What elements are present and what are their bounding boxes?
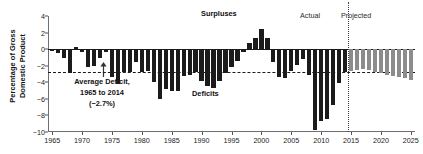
bar [283,49,287,78]
bar [265,38,269,49]
bar [355,49,359,70]
y-axis-title-line-1: Percentage of Gross [8,1,18,131]
bar [217,49,221,81]
y-tick-mark [45,16,48,17]
bar [349,49,353,71]
x-tick-mark [351,132,352,135]
bar [379,49,383,73]
bar [325,49,329,119]
bar [152,49,156,82]
bar [211,49,215,88]
average-deficit-reference-line [48,72,415,73]
bar [313,49,317,130]
bar [104,49,108,52]
bar [409,49,413,80]
y-axis-spine [48,16,49,132]
bar [146,49,150,71]
x-tick-mark [232,132,233,135]
bar [50,49,54,51]
bar [301,49,305,59]
budget-deficit-chart: Percentage of Gross Domestic Product Act… [0,0,423,154]
bar [134,49,138,62]
bar [235,49,239,61]
bar [373,49,377,71]
x-tick-label: 2005 [283,136,299,145]
x-tick-label: 2015 [343,136,359,145]
bar [122,49,126,71]
x-tick-mark [321,132,322,135]
y-tick-mark [45,49,48,50]
bar [361,49,365,69]
bar [337,49,341,83]
x-tick-label: 1965 [44,136,60,145]
x-tick-mark [261,132,262,135]
y-tick-label: −6 [37,94,45,103]
bar [164,49,168,89]
y-tick-label: −2 [37,61,45,70]
bar [170,49,174,91]
bar [289,49,293,71]
bar [367,49,371,70]
y-axis-title: Percentage of Gross Domestic Product [8,1,34,131]
bar [385,49,389,75]
bar [229,49,233,67]
bar [205,49,209,86]
x-tick-label: 1980 [134,136,150,145]
x-tick-mark [52,132,53,135]
y-tick-mark [45,82,48,83]
x-tick-label: 2010 [313,136,329,145]
bar [110,49,114,77]
bar [182,49,186,76]
plot-area: 420−2−4−6−8−1019651970197519801985199019… [48,16,415,132]
x-tick-label: 1970 [74,136,90,145]
bar [343,49,347,72]
bar [116,49,120,84]
x-tick-mark [411,132,412,135]
bar [74,47,78,49]
bar [241,49,245,51]
y-axis-title-line-2: Domestic Product [18,1,28,131]
x-tick-mark [202,132,203,135]
x-tick-label: 1985 [164,136,180,145]
bar [271,49,275,61]
bar [403,49,407,78]
bar [295,49,299,65]
x-tick-label: 2000 [253,136,269,145]
y-tick-label: −4 [37,78,45,87]
bar [188,49,192,75]
y-tick-mark [45,132,48,133]
bar [56,49,60,53]
bar [68,49,72,73]
bar [253,38,257,50]
bar [247,43,251,50]
x-tick-mark [142,132,143,135]
x-tick-label: 2025 [403,136,419,145]
bar [193,49,197,72]
x-tick-label: 2020 [373,136,389,145]
bar [223,49,227,73]
bar [62,49,66,58]
bar [176,49,180,90]
bar [92,49,96,66]
bar [331,49,335,105]
x-tick-mark [381,132,382,135]
x-tick-label: 1995 [224,136,240,145]
bar [86,49,90,66]
x-tick-mark [82,132,83,135]
x-tick-mark [112,132,113,135]
bar [391,49,395,76]
x-tick-mark [172,132,173,135]
bar [98,49,102,58]
bar [397,49,401,77]
bar [128,49,132,71]
y-tick-mark [45,115,48,116]
bar [80,49,84,51]
y-tick-mark [45,32,48,33]
x-tick-label: 1990 [194,136,210,145]
bar [307,49,311,75]
y-tick-label: −8 [37,111,45,120]
bar [277,49,281,77]
x-tick-label: 1975 [104,136,120,145]
x-tick-mark [291,132,292,135]
y-tick-label: −10 [33,128,45,137]
